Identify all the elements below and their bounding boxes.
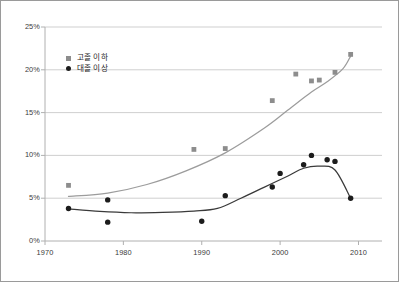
legend-item-high-school: 고졸 이하 <box>64 53 108 64</box>
y-tick-label: 5% <box>7 193 40 202</box>
x-tick-label: 2010 <box>338 248 378 257</box>
x-tick-marks <box>45 241 358 245</box>
x-tick-label: 1980 <box>103 248 143 257</box>
data-point-markers <box>66 52 354 225</box>
y-tick-label: 10% <box>7 150 40 159</box>
y-tick-marks <box>41 27 45 241</box>
x-tick-label: 1990 <box>182 248 222 257</box>
legend-label: 대졸 이상 <box>77 64 108 75</box>
legend-label: 고졸 이하 <box>77 53 108 64</box>
legend-item-college: 대졸 이상 <box>64 64 108 75</box>
circle-marker-icon <box>64 66 73 71</box>
y-tick-label: 15% <box>7 108 40 117</box>
y-tick-label: 0% <box>7 236 40 245</box>
plot-area <box>1 1 399 282</box>
square-marker-icon <box>64 56 73 61</box>
x-tick-label: 2000 <box>260 248 300 257</box>
chart-legend: 고졸 이하 대졸 이상 <box>64 53 108 74</box>
x-tick-label: 1970 <box>25 248 65 257</box>
trend-lines <box>69 56 351 213</box>
chart-figure: 0%5%10%15%20%25% 19701980199020002010 고졸… <box>0 0 399 282</box>
y-tick-label: 20% <box>7 65 40 74</box>
y-tick-label: 25% <box>7 22 40 31</box>
